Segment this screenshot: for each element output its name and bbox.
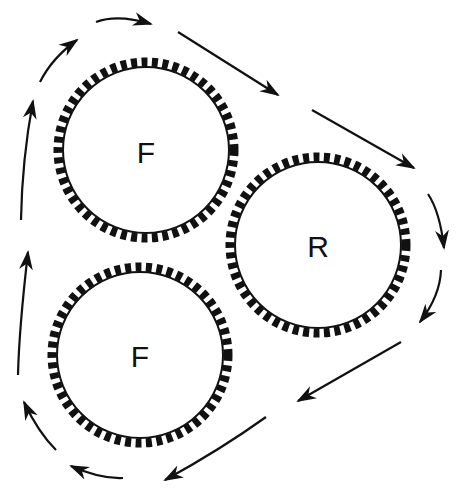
- roll-bottom-f-label: F: [131, 340, 149, 373]
- arrow-icon: [24, 402, 56, 450]
- arrow-icon: [71, 466, 123, 478]
- arrow-icon: [18, 252, 28, 375]
- arrow-icon: [428, 194, 444, 248]
- roll-top-f: F: [58, 62, 234, 238]
- arrow-icon: [96, 18, 151, 24]
- diagram-canvas: F R F: [0, 0, 459, 500]
- roll-right-r-label: R: [307, 230, 329, 263]
- roll-top-f-label: F: [137, 136, 155, 169]
- roll-bottom-f: F: [52, 267, 228, 443]
- arrow-icon: [298, 342, 401, 401]
- arrow-icon: [40, 40, 77, 82]
- arrow-icon: [420, 270, 441, 322]
- arrow-icon: [21, 101, 33, 220]
- roll-right-r: R: [230, 157, 406, 333]
